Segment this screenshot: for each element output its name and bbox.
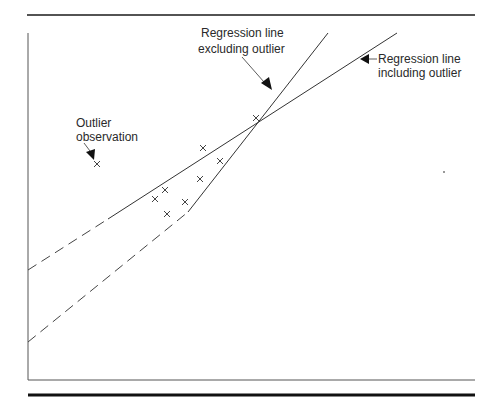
solid-segment (188, 33, 328, 212)
outlier-label-line1: Outlier (76, 116, 111, 130)
excluding-label-line1: Regression line (201, 26, 284, 40)
outlier-arrowhead-icon (86, 149, 95, 160)
dashed-extension (28, 212, 188, 342)
excluding-arrowhead-icon (261, 77, 272, 90)
regression-line-excluding-outlier (28, 33, 328, 342)
outlier-point (94, 161, 100, 167)
excluding-label-line2: excluding outlier (198, 42, 285, 56)
dashed-extension (28, 219, 108, 270)
outlier-arrow-shaft (84, 143, 90, 151)
outlier-label-line2: observation (76, 130, 138, 144)
data-point (164, 211, 170, 217)
data-point (162, 187, 168, 193)
data-point (152, 196, 158, 202)
including-annotation: Regression line including outlier (360, 52, 461, 80)
scan-speck (443, 171, 445, 173)
data-point (182, 199, 188, 205)
solid-segment (108, 33, 397, 219)
data-point (217, 158, 223, 164)
data-point (253, 115, 259, 121)
regression-outlier-diagram: Outlier observation Regression line excl… (0, 0, 497, 399)
excluding-annotation: Regression line excluding outlier (198, 26, 285, 90)
regression-line-including-outlier (28, 33, 397, 270)
including-label-line2: including outlier (378, 66, 461, 80)
outlier-annotation: Outlier observation (76, 116, 138, 160)
data-point (200, 145, 206, 151)
including-label-line1: Regression line (378, 52, 461, 66)
data-point (197, 176, 203, 182)
excluding-arrow-shaft (242, 57, 264, 82)
